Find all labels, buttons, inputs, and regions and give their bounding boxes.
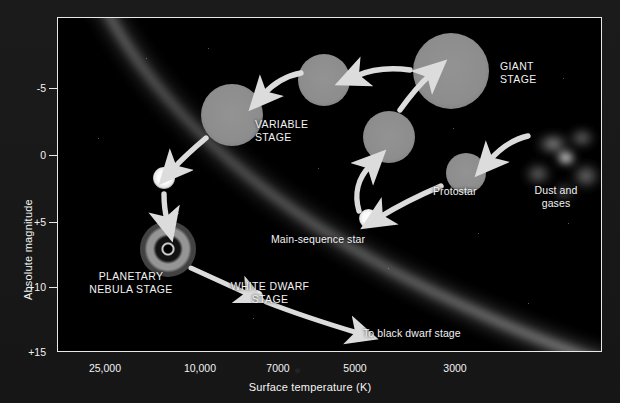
arrow-white-dwarf-to-black-dwarf [266,302,358,333]
arrow-variable-to-hot-white [174,138,206,168]
label-planetary-nebula-stage: PLANETARY NEBULA STAGE [76,270,186,295]
label-variable-stage: VARIABLE STAGE [255,118,308,143]
x-tick-label: 25,000 [70,362,140,374]
y-tick-label: +5 [12,216,46,228]
label-dust-and-gases: Dust and gases [518,184,594,209]
arrow-red-giant-to-giant-stage [400,75,430,110]
label-main-sequence-star: Main-sequence star [271,233,365,246]
label-protostar: Protostar [433,185,477,198]
label-giant-stage: GIANT STAGE [500,60,537,85]
x-axis-title: Surface temperature (K) [0,381,620,393]
x-tick-label: 3000 [420,362,490,374]
x-tick-label: 10,000 [165,362,235,374]
label-white-dwarf-stage: WHITE DWARF STAGE [221,280,319,305]
x-tick-label: 5000 [320,362,390,374]
arrow-hot-white-to-nebula [164,194,167,220]
arrow-main-sequence-to-red-giant [357,166,370,211]
arrow-dust-to-protostar [490,136,528,160]
arrow-variable-right-to-left [264,73,301,94]
arrow-protostar-to-main-sequence [380,186,441,217]
plot-area: GIANT STAGE VARIABLE STAGE Protostar Dus… [57,17,602,352]
y-tick-label: +10 [12,281,46,293]
x-tick-label: 7000 [243,362,313,374]
y-tick-label: 0 [12,149,46,161]
y-tick-label: +15 [12,346,46,358]
arrow-giant-to-variable-right [356,69,410,76]
label-to-black-dwarf-stage: To black dwarf stage [363,327,461,340]
y-tick-label: -5 [12,82,46,94]
hr-diagram-figure: Absolute magnitude -5 0 +5 +10 +15 25,00… [0,0,620,403]
